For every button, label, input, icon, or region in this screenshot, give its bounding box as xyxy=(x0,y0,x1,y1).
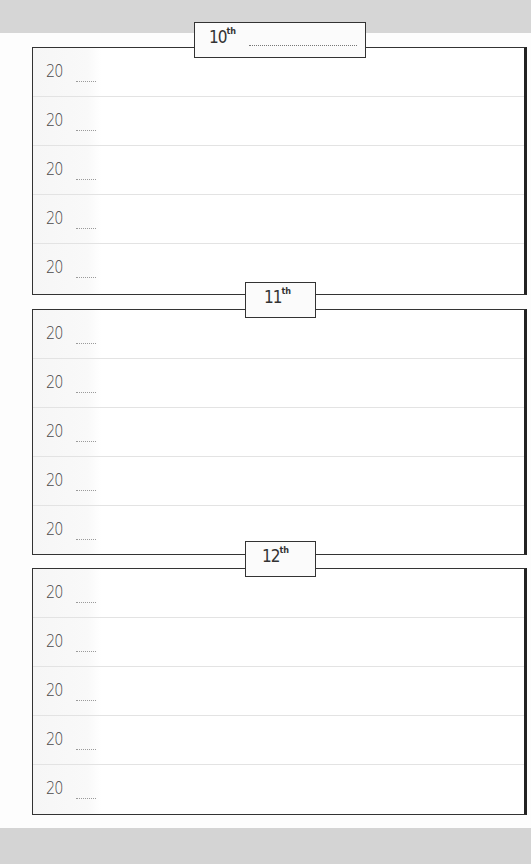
year-blank-line[interactable] xyxy=(76,392,96,393)
year-prefix: 20 xyxy=(46,421,63,441)
year-blank-line[interactable] xyxy=(76,700,96,701)
year-prefix: 20 xyxy=(46,323,63,343)
year-entry-row[interactable]: 20 xyxy=(33,408,524,457)
day-number: 10 xyxy=(209,27,226,47)
day-suffix: th xyxy=(226,26,236,36)
year-blank-line[interactable] xyxy=(76,539,96,540)
year-prefix: 20 xyxy=(46,519,63,539)
year-prefix: 20 xyxy=(46,729,63,749)
year-entry-row[interactable]: 20 xyxy=(33,618,524,667)
year-prefix: 20 xyxy=(46,208,63,228)
year-prefix: 20 xyxy=(46,257,63,277)
day-label-11th: 11th xyxy=(245,282,316,318)
year-blank-line[interactable] xyxy=(76,749,96,750)
day-section-12th: 20 20 20 20 20 xyxy=(32,568,527,815)
year-blank-line[interactable] xyxy=(76,343,96,344)
day-number: 12 xyxy=(262,546,279,566)
year-entry-row[interactable]: 20 xyxy=(33,359,524,408)
month-blank-line[interactable] xyxy=(249,45,357,46)
day-label-12th: 12th xyxy=(245,541,316,577)
day-label-10th: 10th xyxy=(194,22,366,58)
year-prefix: 20 xyxy=(46,680,63,700)
year-entry-row[interactable]: 20 xyxy=(33,457,524,506)
year-blank-line[interactable] xyxy=(76,798,96,799)
year-prefix: 20 xyxy=(46,631,63,651)
year-prefix: 20 xyxy=(46,159,63,179)
year-blank-line[interactable] xyxy=(76,228,96,229)
year-blank-line[interactable] xyxy=(76,277,96,278)
day-suffix: th xyxy=(279,545,289,555)
day-number: 11 xyxy=(264,287,281,307)
year-entry-row[interactable]: 20 xyxy=(33,97,524,146)
year-blank-line[interactable] xyxy=(76,490,96,491)
year-entry-row[interactable]: 20 xyxy=(33,667,524,716)
year-blank-line[interactable] xyxy=(76,441,96,442)
year-prefix: 20 xyxy=(46,61,63,81)
year-blank-line[interactable] xyxy=(76,130,96,131)
year-blank-line[interactable] xyxy=(76,651,96,652)
day-section-11th: 20 20 20 20 20 xyxy=(32,309,527,555)
year-entry-row[interactable]: 20 xyxy=(33,146,524,195)
bottom-page-edge xyxy=(0,828,531,864)
year-blank-line[interactable] xyxy=(76,179,96,180)
day-suffix: th xyxy=(281,286,291,296)
year-prefix: 20 xyxy=(46,778,63,798)
year-entry-row[interactable]: 20 xyxy=(33,195,524,244)
year-blank-line[interactable] xyxy=(76,602,96,603)
year-entry-row[interactable]: 20 xyxy=(33,765,524,814)
year-prefix: 20 xyxy=(46,372,63,392)
year-prefix: 20 xyxy=(46,110,63,130)
year-blank-line[interactable] xyxy=(76,81,96,82)
year-entry-row[interactable]: 20 xyxy=(33,716,524,765)
year-prefix: 20 xyxy=(46,470,63,490)
year-prefix: 20 xyxy=(46,582,63,602)
day-section-10th: 20 20 20 20 20 xyxy=(32,47,527,295)
